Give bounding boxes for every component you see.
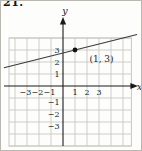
x-axis-label: x: [137, 81, 142, 92]
x-tick-label: −3: [20, 88, 32, 97]
line-series: [4, 34, 137, 67]
x-tick-label: 3: [96, 88, 101, 97]
y-tick-label: −1: [48, 98, 60, 107]
math-figure: 21. 321−1−2−3−3−2−1123 y x (1, 3): [0, 0, 142, 151]
y-tick-label: 2: [54, 58, 59, 67]
axes: [4, 17, 138, 146]
coordinate-plane: 321−1−2−3−3−2−1123 y x (1, 3): [1, 1, 142, 151]
plot-line: [4, 34, 137, 67]
x-tick-label: −2: [32, 88, 44, 97]
data-point: [73, 48, 78, 53]
y-tick-label: 1: [54, 70, 59, 79]
x-tick-label: −1: [44, 88, 56, 97]
point-marker: [73, 48, 78, 53]
x-tick-label: 2: [84, 88, 89, 97]
y-axis-arrow-icon: [60, 17, 66, 25]
x-tick-label: 1: [72, 88, 77, 97]
y-axis-label: y: [61, 5, 68, 16]
problem-number: 21.: [3, 0, 24, 9]
y-tick-label: −2: [48, 110, 60, 119]
point-label: (1, 3): [89, 54, 113, 64]
y-tick-label: −3: [48, 122, 60, 131]
